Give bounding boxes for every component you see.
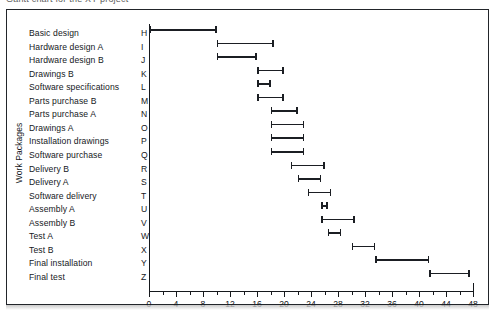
work-package-label: Assembly A [29,204,75,215]
x-axis-major-tick [419,292,420,297]
gantt-bar-end-cap [374,243,376,250]
x-axis-minor-tick [217,292,218,295]
work-package-label: Software purchase [29,150,102,161]
gantt-bar-line [149,29,217,31]
gantt-bar-line [271,151,305,153]
x-axis-minor-tick [163,292,164,295]
work-package-label: Basic design [29,28,79,39]
gantt-bar-line [375,259,429,261]
gantt-plot-area: 04812162024283236404448 [149,20,484,300]
gantt-bar [149,26,217,33]
x-axis-major-tick [311,292,312,297]
work-package-label: Installation drawings [29,136,109,147]
work-package-label: Hardware design A [29,42,103,53]
work-package-code: Y [141,258,147,269]
x-axis-major-tick [392,292,393,297]
work-package-code: N [141,109,147,120]
work-package-code: T [141,191,146,202]
gantt-bar [271,148,305,155]
x-axis-major-tick [230,292,231,297]
gantt-bar [271,134,305,141]
work-package-label: Software delivery [29,191,97,202]
work-package-label: Parts purchase B [29,96,97,107]
x-axis-major-tick [203,292,204,297]
work-package-code: S [141,177,147,188]
gantt-bar-line [291,165,325,167]
work-package-code: P [141,136,147,147]
gantt-bar [271,107,298,114]
gantt-bar-end-cap [303,134,305,141]
gantt-bar-end-cap [296,107,298,114]
x-axis-minor-tick [244,292,245,295]
x-axis-major-tick [149,292,150,297]
gantt-bar-line [217,56,258,58]
work-package-label: Software specifications [29,82,119,93]
work-package-code: W [141,231,149,242]
x-axis-major-tick [446,292,447,297]
gantt-bar-line [298,178,322,180]
work-package-code: L [141,82,146,93]
gantt-bar-line [271,137,305,139]
gantt-bar [217,40,274,47]
gantt-bar-end-cap [468,270,470,277]
x-axis-major-tick [284,292,285,297]
work-package-label: Hardware design B [29,55,104,66]
gantt-bar-line [271,110,298,112]
work-package-code: H [141,28,147,39]
x-axis-minor-tick [271,292,272,295]
x-axis-major-tick [473,292,474,297]
gantt-bar-line [257,70,284,72]
x-axis-major-tick [338,292,339,297]
work-package-code: V [141,218,147,229]
gantt-bar [298,175,322,182]
gantt-bar-line [429,273,470,275]
gantt-bar [257,94,284,101]
gantt-bar [375,256,429,263]
x-axis-minor-tick [298,292,299,295]
work-package-label: Test A [29,231,53,242]
x-axis-major-tick [365,292,366,297]
gantt-bar [308,189,332,196]
gantt-bar-end-cap [353,216,355,223]
gantt-bar-line [271,124,305,126]
x-axis-minor-tick [406,292,407,295]
work-package-code: U [141,204,147,215]
work-package-label: Final test [29,272,65,283]
gantt-bar-end-cap [326,202,328,209]
gantt-bar [257,67,284,74]
gantt-bar-end-cap [282,67,284,74]
work-package-label: Assembly B [29,218,75,229]
x-axis-minor-tick [190,292,191,295]
gantt-bar-end-cap [272,40,274,47]
gantt-bar-end-cap [323,162,325,169]
gantt-bar-line [308,192,332,194]
y-axis-title: Work Packages [14,103,24,203]
gantt-bar [429,270,470,277]
gantt-bar-end-cap [255,53,257,60]
gantt-bar-end-cap [340,229,342,236]
gantt-bar-end-cap [303,148,305,155]
gantt-bar [321,202,328,209]
gantt-bar-line [217,43,274,45]
work-package-label: Drawings B [29,69,74,80]
gantt-bar [352,243,376,250]
work-package-code: Q [141,150,148,161]
y-axis-line [149,24,150,291]
gantt-bar-end-cap [428,256,430,263]
work-package-code: M [141,96,148,107]
work-package-label: Delivery A [29,177,69,188]
gantt-bar-end-cap [320,175,322,182]
gantt-bar-line [352,246,376,248]
x-axis-end-cap [149,283,150,292]
work-package-code: I [141,42,143,53]
figure-caption-strip: Gantt chart for the XY project [0,0,495,9]
page-edge-shadow [6,305,489,310]
work-package-code: O [141,123,148,134]
x-axis-minor-tick [460,292,461,295]
x-axis-minor-tick [325,292,326,295]
x-axis-end-cap [473,283,474,292]
gantt-bar [291,162,325,169]
x-axis-minor-tick [379,292,380,295]
gantt-bar-line [321,219,355,221]
x-axis-minor-tick [433,292,434,295]
